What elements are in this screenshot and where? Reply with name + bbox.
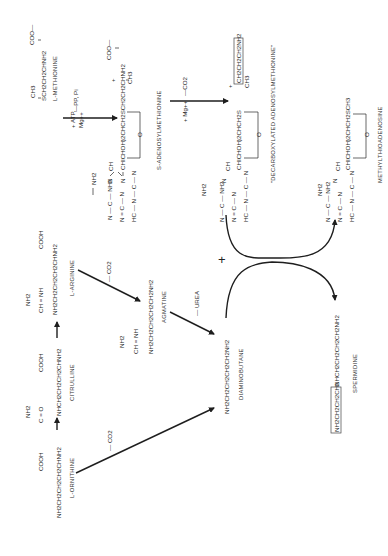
agmatine: NH2 CH = NH NH2CH2CH2CH2CH2NH2 AGMATINE (118, 279, 167, 354)
l-methionine: CH3 COO— SCH2CH2CHNH2 L-METHIONINE (28, 24, 58, 101)
ornithine-formula: NH2CH2CH2CH2CHNH2 (55, 447, 62, 518)
spermidine-boxed: NH2CH2CH2CH2 (333, 382, 340, 432)
urea-label: — UREA (193, 290, 200, 316)
citrulline-nh2: NH2 (24, 405, 31, 418)
mta-formula: CHICHOH)2CHCH2SCH3 (344, 97, 351, 170)
arginine-nh2: NH2 (24, 293, 31, 306)
diaminobutane-formula: NH2CH2CH2CH2CH2NH2 (223, 339, 230, 414)
agmatine-chnh: CH = NH (132, 329, 139, 354)
agmatine-nh2: NH2 (118, 335, 125, 348)
arrow-putrescine-to-spermidine (226, 262, 335, 318)
dcsam-nh2: NH2 (200, 183, 207, 196)
sam-charge: + (109, 78, 116, 82)
mg-label: Mg++ (77, 112, 84, 128)
methionine-formula: SCH2CH2CHNH2 (40, 50, 47, 101)
ornithine-cooh: COOH (37, 452, 44, 471)
sam-coo: COO— (105, 39, 112, 60)
diaminobutane: NH2CH2CH2CH2CH2NH2 DIAMINOBUTANE (223, 339, 244, 414)
agmatine-label: AGMATINE (161, 291, 167, 323)
sam-adenine-row1: N — C — NH2 (106, 179, 113, 220)
mta-row1: N — C — NH2 (324, 181, 331, 222)
decarboxylated-sam: NH2 N — C — NH2 N = C — N HC — N — C — N… (200, 33, 276, 222)
citrulline-label: CITRULLINE (69, 364, 75, 401)
sam-adenine-row3: HC — N — C — N (130, 171, 137, 222)
arrow-ornithine-to-diaminobutane (76, 408, 214, 473)
dcsam-charge: + (226, 84, 233, 88)
mta-nh2: NH2 (316, 183, 323, 196)
agmatine-formula: NH2CH2CH2CH2CH2NH2 (147, 279, 154, 354)
mta-ring-o: O (363, 132, 370, 137)
mta-row3: HC — N — C — N (348, 171, 355, 222)
pathway-diagram: CH3 COO— SCH2CH2CHNH2 L-METHIONINE + ATP… (0, 0, 388, 556)
dcsam-row1: N — C — NH2 (218, 181, 225, 222)
methionine-ch3: CH3 (29, 85, 36, 98)
citrulline-co: C = O (37, 406, 44, 423)
spermidine-label: SPERMIDINE (352, 354, 358, 393)
dcsam-ring-o: O (255, 132, 262, 137)
spermidine-formula: NHCH2CH2CH2CH2NH2 (333, 315, 340, 386)
arginine-chnh: CH = NH (37, 288, 44, 313)
methionine-coo: COO— (28, 24, 35, 45)
arginine-cooh: COOH (37, 230, 44, 249)
methionine-label: L-METHIONINE (52, 56, 58, 101)
arginine-label: L-ARGININE (69, 260, 75, 296)
sam-adenine-row2: N = C — N (118, 192, 125, 222)
plus-sign: + (218, 252, 226, 267)
l-arginine: NH2 CH = NH COOH NH2CH2CH2CH2CHNH2 L-ARG… (24, 230, 75, 315)
sam-adenine-n9: N (119, 179, 126, 183)
dcsam-row3: HC — N — C — N (242, 171, 249, 222)
co2-sam-label: —CO2 (181, 77, 188, 96)
dcsam-n7: N (220, 179, 227, 183)
co2-arg-label: — CO2 (105, 261, 112, 282)
dcsam-ch3: CH3 (243, 75, 250, 88)
dcsam-propylamine: CH2CH2CH2NH2 (235, 33, 242, 83)
dcsam-formula: CHICHOH)2CHCH2S (235, 110, 242, 170)
citrulline: NH2 C = O COOH NHCH2CH2CH2CHNH2 CITRULLI… (24, 348, 75, 423)
mta-label: METHYLTHIOADENOSINE (377, 106, 383, 183)
mg2-label: + Mg++ (181, 100, 188, 122)
methylthioadenosine: NH2 N — C — NH2 N = C — N HC — N — C — N… (316, 97, 383, 222)
sam-adenine-nh2: NH2 (90, 172, 97, 185)
dcsam-label: "DECARBOXYLATED ADENOSYLMETHIONINE" (270, 44, 276, 183)
spermidine: NH2CH2CH2CH2 NHCH2CH2CH2CH2NH2 SPERMIDIN… (331, 315, 358, 433)
sam-label: S-ADENOSYLMETHIONINE (156, 90, 162, 170)
dcsam-ch: CH (224, 162, 231, 171)
sam-adenine-ring: N — C — NH2 N = C — N HC — N — C — N (106, 171, 137, 222)
citrulline-formula: NHCH2CH2CH2CHNH2 (55, 348, 62, 416)
arrow-agmatine-to-diaminobutane (170, 312, 214, 334)
ornithine-label: L-ORNITHINE (69, 458, 75, 498)
mta-ch: CH (334, 162, 341, 171)
sam-ring-o: O (136, 132, 143, 137)
diaminobutane-label: DIAMINOBUTANE (238, 348, 244, 400)
sam-adenine-ch: CH (107, 162, 114, 171)
s-adenosylmethionine: NH2 N CH N CHICHOH)2CHCH2SCH2CH2CHNH2 + … (90, 39, 162, 195)
dcsam-row2: N = C — N (230, 192, 237, 222)
mta-row2: N = C — N (336, 192, 343, 222)
ppi-label: —PP, Pi (72, 89, 79, 112)
co2-orn-label: — CO2 (106, 430, 113, 451)
sam-ch3: CH3 (126, 71, 133, 84)
citrulline-cooh: COOH (37, 353, 44, 372)
arginine-formula: NH2CH2CH2CH2CHNH2 (51, 244, 58, 315)
mta-n7: N (331, 179, 338, 183)
l-ornithine: COOH NH2CH2CH2CH2CHNH2 L-ORNITHINE (37, 447, 75, 518)
sam-formula: CHICHOH)2CHCH2SCH2CH2CHNH2 (119, 64, 126, 170)
